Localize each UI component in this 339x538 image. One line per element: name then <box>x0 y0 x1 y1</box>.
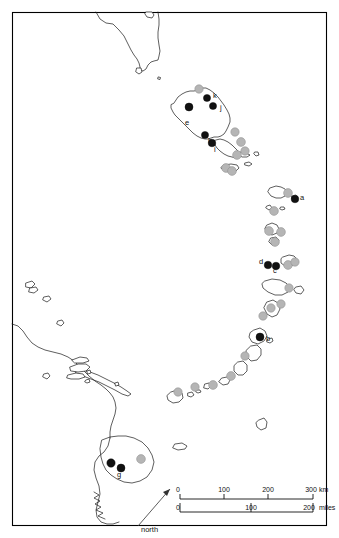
scale-label-km-300: 300 <box>305 486 317 493</box>
coastline-small-cay-2 <box>254 152 259 156</box>
north-arrow-shaft <box>138 489 170 526</box>
occupied-site-marker <box>107 459 115 467</box>
unoccupied-site-marker <box>231 128 239 136</box>
scale-label-km-0: 0 <box>176 486 180 493</box>
map-canvas: abcdeghijk north 0 100 200 300 km 0 100 <box>0 0 339 538</box>
unoccupied-site-marker <box>195 85 203 93</box>
scale-label-miles-100: 100 <box>245 504 257 511</box>
coastline-st-vincent <box>234 361 247 375</box>
unoccupied-site-marker <box>291 258 299 266</box>
coastline-cuba <box>171 88 230 139</box>
site-label-a: a <box>300 193 305 202</box>
coastline-florida-tip <box>136 68 142 74</box>
occupied-site-marker <box>203 94 210 101</box>
coastline-small-cay-14 <box>115 382 119 386</box>
coastline-bonaire <box>26 281 35 288</box>
scale-bar: 0 100 200 300 km 0 100 200 miles <box>176 486 336 512</box>
unoccupied-site-marker <box>284 189 293 198</box>
map-frame <box>13 13 327 526</box>
coastline-south-america <box>12 324 116 438</box>
unoccupied-site-marker <box>241 147 249 155</box>
coastline-coche <box>67 373 85 379</box>
coastline-paria-peninsula <box>76 369 131 396</box>
coastline-small-cay-13 <box>87 370 91 374</box>
scale-label-miles-200: 200 <box>303 504 315 511</box>
scale-label-km-100: 100 <box>218 486 230 493</box>
unoccupied-site-marker <box>227 372 236 381</box>
map-figure: abcdeghijk north 0 100 200 300 km 0 100 <box>0 0 339 538</box>
unoccupied-site-marker <box>270 207 279 216</box>
coastline-tobago <box>173 443 187 450</box>
north-arrow-label: north <box>141 525 158 534</box>
unoccupied-site-marker <box>277 228 286 237</box>
coastline-tortuga <box>72 357 89 363</box>
scale-unit-miles: miles <box>319 504 336 511</box>
north-arrow: north <box>138 489 170 534</box>
unoccupied-site-marker <box>277 300 285 308</box>
unoccupied-site-marker <box>137 455 146 464</box>
coastline-marie-galante <box>294 286 304 294</box>
unoccupied-site-marker <box>237 138 246 147</box>
coastlines-layer <box>12 12 304 524</box>
site-label-g: g <box>117 470 121 479</box>
unoccupied-site-marker <box>233 151 242 160</box>
unoccupied-site-marker <box>241 352 249 360</box>
site-label-k: k <box>213 91 217 100</box>
unoccupied-site-marker <box>259 312 267 320</box>
coastline-bahama-bank-north <box>145 12 154 18</box>
unoccupied-site-marker <box>191 383 199 391</box>
scale-label-km-200: 200 <box>262 486 274 493</box>
coastline-trinidad <box>100 436 154 483</box>
unoccupied-site-marker <box>285 284 293 292</box>
occupied-site-marker <box>264 261 272 269</box>
coastline-barbados <box>256 418 267 430</box>
site-label-e: e <box>185 118 189 127</box>
scale-unit-km: km <box>319 486 329 493</box>
north-arrow-head <box>163 489 170 496</box>
site-label-c: c <box>273 266 277 275</box>
unoccupied-site-marker <box>267 304 275 312</box>
site-label-b: b <box>266 334 270 343</box>
unoccupied-site-marker <box>209 381 218 390</box>
site-label-d: d <box>259 257 263 266</box>
coastline-curacao <box>29 287 38 293</box>
coastline-small-cay-1 <box>158 77 161 80</box>
coastline-small-cay-11 <box>85 379 90 383</box>
occupied-site-marker <box>291 195 299 203</box>
unoccupied-site-marker <box>228 167 237 176</box>
coastline-virgin-islands <box>245 162 252 166</box>
coastline-aruba <box>43 296 51 302</box>
unoccupied-site-marker <box>265 227 274 236</box>
scale-label-miles-0: 0 <box>176 504 180 511</box>
coastline-small-cay-5 <box>280 207 285 210</box>
coastline-small-cay-12 <box>57 320 64 326</box>
occupied-site-marker <box>256 333 264 341</box>
coastline-florida <box>96 12 160 71</box>
coastline-small-cay-10 <box>43 373 50 379</box>
occupied-site-marker <box>185 103 193 111</box>
site-label-h: h <box>208 136 212 145</box>
unoccupied-site-marker <box>271 238 280 247</box>
coastline-small-cay-9 <box>188 392 194 397</box>
site-label-j: j <box>219 103 222 112</box>
unoccupied-site-marker <box>174 388 182 396</box>
occupied-site-marker <box>209 102 216 109</box>
